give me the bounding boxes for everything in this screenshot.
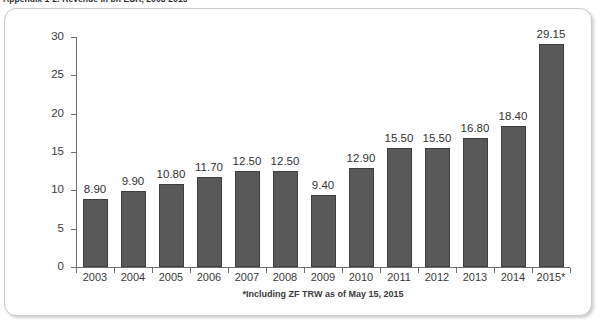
y-axis-tick [71, 114, 76, 115]
bar [235, 171, 260, 267]
x-axis-label: 2015* [529, 272, 573, 283]
y-axis-tick [71, 75, 76, 76]
bar [425, 148, 450, 267]
y-axis-label: 25 [38, 69, 64, 81]
y-axis-tick [71, 229, 76, 230]
y-axis-label: 30 [38, 31, 64, 43]
y-axis-tick [71, 152, 76, 153]
chart-footnote: *Including ZF TRW as of May 15, 2015 [76, 289, 570, 299]
y-axis-label: 15 [38, 146, 64, 158]
bar-value-label: 18.40 [491, 111, 535, 123]
bar-value-label: 12.50 [263, 156, 307, 168]
bar [501, 126, 526, 267]
bar [159, 184, 184, 267]
bar [273, 171, 298, 267]
bar [121, 191, 146, 267]
y-axis-tick [71, 37, 76, 38]
y-axis-label: 10 [38, 184, 64, 196]
y-axis-label: 0 [38, 261, 64, 273]
y-axis-label: 20 [38, 108, 64, 120]
bar [311, 195, 336, 267]
bar [349, 168, 374, 267]
y-axis-line [76, 37, 77, 268]
bar [387, 148, 412, 267]
x-axis-line [76, 267, 570, 268]
bar-value-label: 16.80 [453, 123, 497, 135]
bar [539, 44, 564, 267]
bar [83, 199, 108, 267]
bar-value-label: 9.40 [301, 180, 345, 192]
bar [197, 177, 222, 267]
y-axis-label: 5 [38, 223, 64, 235]
bar-chart: 051015202530 8.909.9010.8011.7012.5012.5… [0, 0, 604, 328]
bar-value-label: 12.90 [339, 153, 383, 165]
bar-value-label: 15.50 [415, 133, 459, 145]
bar-value-label: 29.15 [529, 29, 573, 41]
bar [463, 138, 488, 267]
